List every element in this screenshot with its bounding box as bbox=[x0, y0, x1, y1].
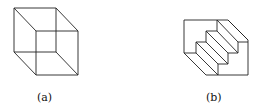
schroeder-stairs bbox=[184, 20, 248, 75]
figure-label-a: (a) bbox=[37, 91, 52, 104]
necker-cube bbox=[14, 8, 78, 75]
figure-label-b: (b) bbox=[206, 91, 222, 104]
